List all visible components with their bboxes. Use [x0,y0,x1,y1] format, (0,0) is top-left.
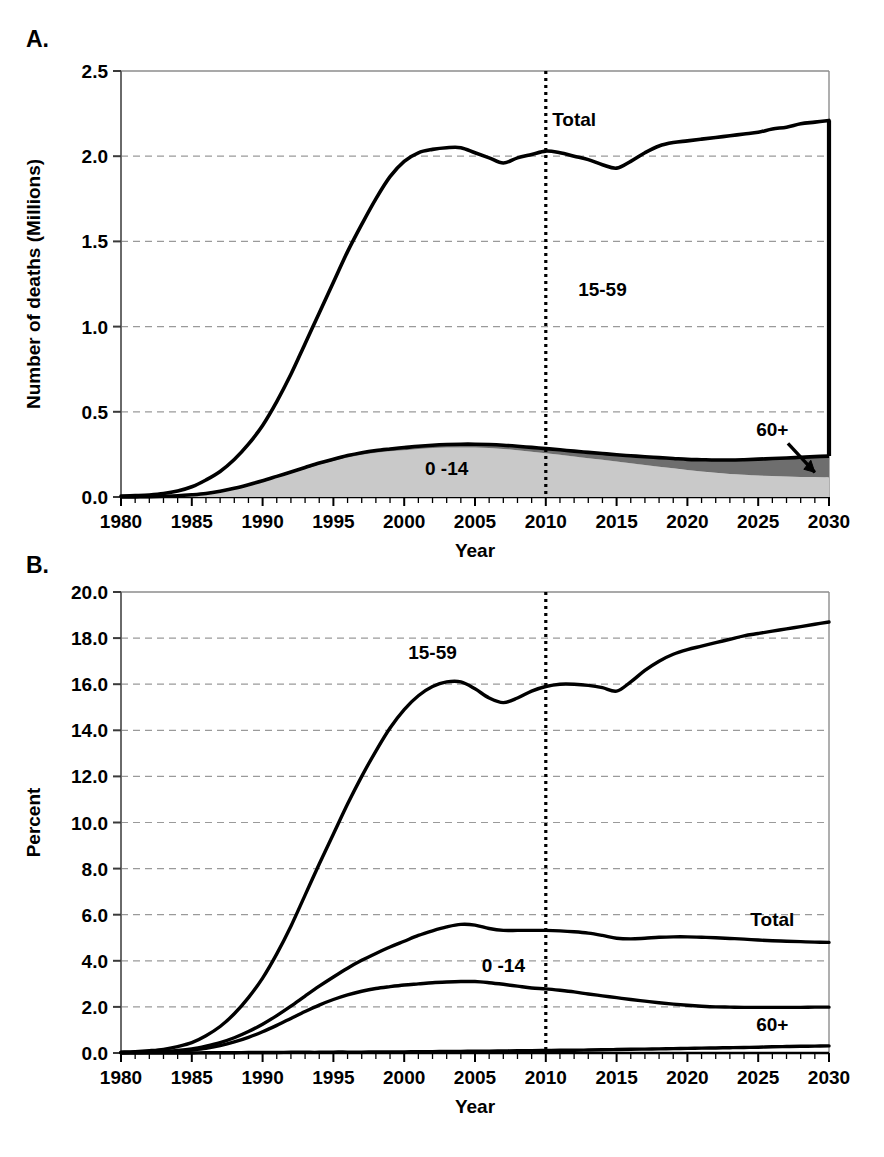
x-tick-label: 2005 [454,1067,497,1088]
x-tick-label: 2000 [383,511,425,532]
y-tick-label: 10.0 [71,813,108,834]
figure-container: A. 0.00.51.01.52.02.51980198519901995200… [0,0,884,1157]
x-tick-label: 2020 [666,511,708,532]
x-tick-label: 2015 [595,1067,638,1088]
y-tick-label: 14.0 [71,720,108,741]
x-tick-label: 2000 [383,1067,425,1088]
panel-a-letter: A. [26,26,49,53]
x-tick-label: 2005 [454,511,497,532]
y-tick-label: 20.0 [71,582,108,603]
y-tick-label: 2.0 [82,997,108,1018]
annotation-total: Total [552,109,596,130]
y-tick-label: 1.0 [82,317,108,338]
x-tick-label: 1995 [312,1067,355,1088]
x-tick-label: 2025 [737,1067,780,1088]
y-tick-label: 2.0 [82,146,108,167]
x-tick-label: 1995 [312,511,355,532]
y-tick-label: 0.0 [82,487,108,508]
series-line-total [121,924,829,1052]
x-tick-label: 1990 [241,511,283,532]
panel-b-letter: B. [26,552,49,579]
x-tick-label: 1980 [100,1067,142,1088]
y-tick-label: 8.0 [82,859,108,880]
annotation-0--14: 0 -14 [482,955,526,976]
y-tick-label: 0.0 [82,1043,108,1064]
panel-b: B. 0.02.04.06.08.010.012.014.016.018.020… [0,540,884,1157]
x-tick-label: 1985 [171,1067,214,1088]
y-tick-label: 4.0 [82,951,108,972]
x-axis-title: Year [455,1096,496,1117]
annotation-15-59: 15-59 [408,642,457,663]
y-axis-title: Percent [23,787,44,857]
annotation-60-: 60+ [756,419,788,440]
x-tick-label: 2010 [525,1067,567,1088]
x-tick-label: 1980 [100,511,142,532]
panel-a-plot: 0.00.51.01.52.02.51980198519901995200020… [0,0,884,572]
x-tick-label: 2030 [808,1067,850,1088]
panel-b-plot: 0.02.04.06.08.010.012.014.016.018.020.01… [0,540,884,1157]
y-tick-label: 1.5 [82,231,109,252]
annotation-total: Total [750,909,794,930]
x-tick-label: 2020 [666,1067,708,1088]
y-tick-label: 6.0 [82,905,108,926]
y-tick-label: 18.0 [71,628,108,649]
series-line-total [121,120,829,496]
x-tick-label: 1990 [241,1067,283,1088]
x-tick-label: 2015 [595,511,638,532]
x-tick-label: 2025 [737,511,780,532]
y-tick-label: 16.0 [71,674,108,695]
x-tick-label: 1985 [171,511,214,532]
y-tick-label: 12.0 [71,766,108,787]
x-tick-label: 2030 [808,511,850,532]
x-tick-label: 2010 [525,511,567,532]
y-tick-label: 0.5 [82,402,109,423]
panel-a: A. 0.00.51.01.52.02.51980198519901995200… [0,0,884,572]
series-line-15-59 [121,622,829,1052]
annotation-15-59: 15-59 [578,279,627,300]
y-tick-label: 2.5 [82,61,109,82]
annotation-60-: 60+ [756,1014,788,1035]
annotation-0--14: 0 -14 [425,458,469,479]
y-axis-title: Number of deaths (Millions) [23,159,44,409]
